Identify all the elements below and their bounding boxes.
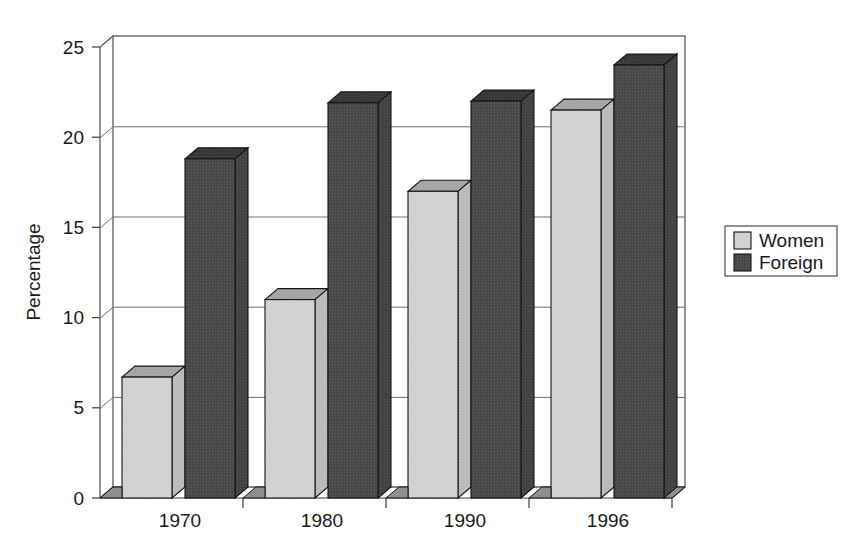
bar-women-1996[interactable] xyxy=(551,99,614,498)
bar-side-face xyxy=(664,54,677,498)
bar-front-face xyxy=(185,159,235,498)
legend-item-foreign[interactable]: Foreign xyxy=(734,252,823,273)
y-tick-label-20: 20 xyxy=(63,127,84,148)
x-axis: 1970 1980 1990 1996 xyxy=(159,498,672,531)
bar-group-1996 xyxy=(529,54,685,498)
bar-side-face xyxy=(458,180,471,498)
bar-foreign-1996[interactable] xyxy=(614,54,677,498)
bar-chart-svg: 25 20 15 10 5 0 Percentage xyxy=(0,0,858,560)
legend-label-women: Women xyxy=(759,230,824,251)
bar-side-face xyxy=(235,148,248,498)
bar-foreign-1990[interactable] xyxy=(471,90,534,498)
y-tick-label-10: 10 xyxy=(63,307,84,328)
bar-foreign-1980[interactable] xyxy=(328,92,391,498)
bar-foreign-1970[interactable] xyxy=(185,148,248,498)
legend-swatch-women xyxy=(734,232,751,249)
bar-front-face xyxy=(328,103,378,498)
legend-label-foreign: Foreign xyxy=(759,252,823,273)
x-label-1996: 1996 xyxy=(587,510,629,531)
bar-group-1990 xyxy=(386,90,534,498)
legend-swatch-foreign xyxy=(734,254,751,271)
y-tick-label-15: 15 xyxy=(63,217,84,238)
bar-front-face xyxy=(551,110,601,498)
bar-group-1970 xyxy=(100,148,248,498)
y-axis: 25 20 15 10 5 0 Percentage xyxy=(23,37,100,509)
bar-side-face xyxy=(378,92,391,498)
bar-women-1980[interactable] xyxy=(265,289,328,498)
bar-front-face xyxy=(471,101,521,498)
y-tick-label-0: 0 xyxy=(73,488,84,509)
bar-side-face xyxy=(521,90,534,498)
y-tick-label-5: 5 xyxy=(73,397,84,418)
bar-front-face xyxy=(614,65,664,498)
legend: Women Foreign xyxy=(725,226,837,276)
bar-front-face xyxy=(122,377,172,498)
bar-side-face xyxy=(315,289,328,498)
chart-container: 25 20 15 10 5 0 Percentage xyxy=(0,0,858,560)
bar-women-1970[interactable] xyxy=(122,366,185,498)
bar-group-1980 xyxy=(243,92,391,498)
bar-women-1990[interactable] xyxy=(408,180,471,498)
bar-side-face xyxy=(172,366,185,498)
floor-strip xyxy=(100,487,122,498)
bar-side-face xyxy=(601,99,614,498)
y-tick-label-25: 25 xyxy=(63,37,84,58)
legend-item-women[interactable]: Women xyxy=(734,230,824,251)
y-axis-title: Percentage xyxy=(23,223,44,320)
x-label-1970: 1970 xyxy=(159,510,201,531)
bar-front-face xyxy=(408,191,458,498)
bar-front-face xyxy=(265,300,315,498)
x-label-1990: 1990 xyxy=(444,510,486,531)
x-label-1980: 1980 xyxy=(301,510,343,531)
